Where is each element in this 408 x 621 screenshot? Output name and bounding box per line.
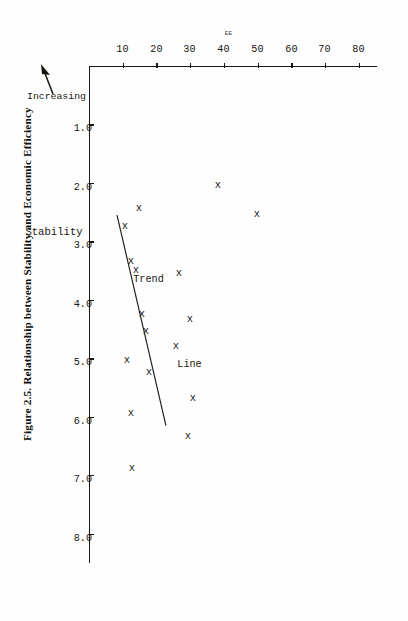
x-tick-label: 2.0 — [63, 182, 103, 193]
scatter-point: x — [184, 314, 196, 326]
y-tick — [325, 63, 326, 68]
trend-label-word-line: Line — [177, 359, 201, 370]
scatter-plot: 1.02.03.04.05.06.07.08.0 102030405060708… — [50, 26, 380, 566]
y-tick-label: 60 — [267, 44, 297, 55]
y-tick — [123, 63, 124, 68]
scatter-point: x — [136, 309, 148, 321]
y-tick-label: 20 — [132, 44, 162, 55]
scatter-point: x — [121, 355, 133, 367]
increasing-annotation: Increasing — [32, 60, 62, 180]
y-tick — [156, 63, 157, 68]
x-tick-label: 6.0 — [63, 416, 103, 427]
scatter-point: x — [170, 341, 182, 353]
x-tick-label: 1.0 — [63, 123, 103, 134]
scatter-point: x — [133, 203, 145, 215]
scatter-point: x — [140, 326, 152, 338]
trend-label-word-trend: Trend — [133, 274, 164, 285]
y-tick — [190, 63, 191, 68]
x-tick-label: 4.0 — [63, 299, 103, 310]
y-tick — [258, 63, 259, 68]
y-tick-label: 40 — [200, 44, 230, 55]
trend-line-svg — [50, 26, 380, 566]
x-tick-label: 3.0 — [63, 240, 103, 251]
x-tick-label: 7.0 — [63, 474, 103, 485]
scatter-point: x — [212, 180, 224, 192]
y-tick-label: 80 — [335, 44, 365, 55]
scatter-point: x — [187, 393, 199, 405]
scatter-point: x — [251, 209, 263, 221]
y-tick — [291, 63, 292, 68]
x-tick-label: 8.0 — [63, 533, 103, 544]
scatter-point: x — [125, 408, 137, 420]
x-tick-label: 5.0 — [63, 357, 103, 368]
plot-rotation-wrapper: 1.02.03.04.05.06.07.08.0 102030405060708… — [50, 26, 380, 566]
scatter-point: x — [143, 367, 155, 379]
y-tick — [224, 63, 225, 68]
y-axis-title: EE — [216, 30, 242, 37]
x-axis-title: Stability — [0, 226, 114, 238]
figure-page: Figure 2.5. Relationship between Stabili… — [0, 0, 408, 621]
y-tick-label: 50 — [233, 44, 263, 55]
scatter-point: x — [182, 431, 194, 443]
y-tick — [359, 63, 360, 68]
scatter-point: x — [119, 221, 131, 233]
scatter-point: x — [126, 463, 138, 475]
y-tick-label: 30 — [166, 44, 196, 55]
left-arrow-icon — [38, 62, 56, 96]
y-tick-label: 10 — [98, 44, 128, 55]
increasing-label: Increasing — [11, 91, 103, 102]
scatter-point: x — [173, 268, 185, 280]
y-tick-label: 70 — [301, 44, 331, 55]
